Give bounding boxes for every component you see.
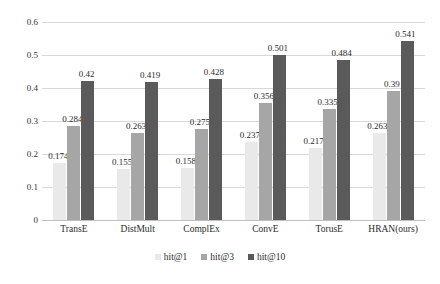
x-axis-tick-label: HRAN(ours) [361, 224, 425, 234]
plot-area: 0.1740.2840.420.1550.2630.4190.1580.2750… [42, 22, 425, 220]
bar-value-label: 0.335 [317, 98, 337, 107]
bar-chart: 00.10.20.30.40.50.6 0.1740.2840.420.1550… [0, 0, 440, 284]
y-axis-tick-label: 0.2 [4, 150, 38, 159]
bar-value-label: 0.419 [140, 71, 160, 80]
bar-value-label: 0.541 [395, 30, 415, 39]
bar-group: 0.1740.2840.42 [42, 22, 106, 220]
bar-value-label: 0.275 [190, 118, 210, 127]
bar-value-label: 0.174 [48, 152, 68, 161]
bar-group: 0.2630.390.541 [361, 22, 425, 220]
bar-value-label: 0.39 [384, 80, 400, 89]
bar: 0.284 [67, 126, 80, 220]
y-axis-tick-label: 0.1 [4, 183, 38, 192]
x-axis-tick-label: TransE [42, 224, 106, 234]
bar-group-bars: 0.2370.3560.501 [234, 22, 298, 220]
bar: 0.155 [117, 169, 130, 220]
bar-value-label: 0.42 [79, 70, 95, 79]
bar-group-bars: 0.1740.2840.42 [42, 22, 106, 220]
legend-swatch-icon [248, 254, 254, 260]
bar-group: 0.2370.3560.501 [234, 22, 298, 220]
bar-value-label: 0.501 [268, 44, 288, 53]
y-axis-tick-label: 0.5 [4, 51, 38, 60]
bar-group-bars: 0.1580.2750.428 [170, 22, 234, 220]
gridline [42, 220, 425, 221]
legend-item[interactable]: hit@10 [248, 252, 285, 262]
bar-value-label: 0.356 [254, 92, 274, 101]
bar-value-label: 0.428 [204, 68, 224, 77]
y-axis-tick-label: 0.6 [4, 18, 38, 27]
bar: 0.356 [259, 103, 272, 220]
bar: 0.237 [245, 142, 258, 220]
bar-group: 0.1580.2750.428 [170, 22, 234, 220]
bar-value-label: 0.158 [176, 157, 196, 166]
x-axis-tick-label: TorusE [297, 224, 361, 234]
bar: 0.263 [373, 133, 386, 220]
legend-swatch-icon [155, 254, 161, 260]
legend-swatch-icon [201, 254, 207, 260]
bar: 0.428 [209, 79, 222, 220]
x-axis-tick-label: ConvE [234, 224, 298, 234]
bar: 0.419 [145, 82, 158, 220]
bar: 0.39 [387, 91, 400, 220]
bar-group-bars: 0.2170.3350.484 [297, 22, 361, 220]
legend-label: hit@1 [164, 252, 188, 262]
bar-value-label: 0.263 [126, 122, 146, 131]
bar: 0.275 [195, 129, 208, 220]
bar: 0.174 [53, 163, 66, 220]
bar: 0.158 [181, 168, 194, 220]
bar-value-label: 0.484 [331, 49, 351, 58]
bar-value-label: 0.284 [62, 115, 82, 124]
x-axis-tick-label: DistMult [106, 224, 170, 234]
bar-group-bars: 0.2630.390.541 [361, 22, 425, 220]
legend-label: hit@3 [210, 252, 234, 262]
bar-value-label: 0.217 [303, 137, 323, 146]
bar: 0.263 [131, 133, 144, 220]
y-axis-tick-label: 0 [4, 216, 38, 225]
bar: 0.335 [323, 109, 336, 220]
bar: 0.42 [81, 81, 94, 220]
y-axis-tick-label: 0.4 [4, 84, 38, 93]
y-axis-tick-label: 0.3 [4, 117, 38, 126]
legend-item[interactable]: hit@3 [201, 252, 234, 262]
bar-value-label: 0.237 [240, 131, 260, 140]
bar: 0.541 [401, 41, 414, 220]
bar-group-bars: 0.1550.2630.419 [106, 22, 170, 220]
legend-item[interactable]: hit@1 [155, 252, 188, 262]
bar: 0.501 [273, 55, 286, 220]
bar-value-label: 0.263 [367, 122, 387, 131]
chart-legend: hit@1hit@3hit@10 [0, 252, 440, 262]
bar-group: 0.1550.2630.419 [106, 22, 170, 220]
x-axis-tick-label: ComplEx [170, 224, 234, 234]
legend-label: hit@10 [257, 252, 285, 262]
bar-group: 0.2170.3350.484 [297, 22, 361, 220]
bar: 0.484 [337, 60, 350, 220]
bar: 0.217 [309, 148, 322, 220]
bar-value-label: 0.155 [112, 158, 132, 167]
